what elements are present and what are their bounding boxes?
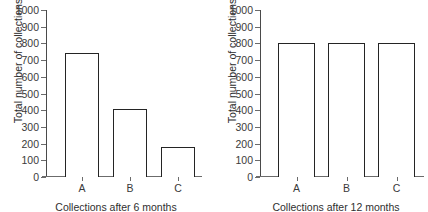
y-tick-left-0 <box>41 177 46 178</box>
bar-left-C <box>161 147 195 177</box>
y-tick-right-600 <box>255 77 260 78</box>
y-tick-label-right-1000: 1000 <box>230 5 253 16</box>
y-tick-label-right-300: 300 <box>235 122 253 133</box>
bar-left-A <box>65 53 99 177</box>
bar-right-C <box>378 43 415 177</box>
y-tick-right-800 <box>255 43 260 44</box>
x-category-label-right-C: C <box>393 183 401 194</box>
y-tick-label-left-100: 100 <box>21 155 39 166</box>
x-category-label-right-B: B <box>343 183 350 194</box>
y-tick-label-left-400: 400 <box>21 105 39 116</box>
y-tick-left-300 <box>41 127 46 128</box>
y-tick-label-right-0: 0 <box>247 172 253 183</box>
y-tick-left-400 <box>41 110 46 111</box>
y-tick-left-500 <box>41 94 46 95</box>
y-tick-left-100 <box>41 160 46 161</box>
y-tick-right-0 <box>255 177 260 178</box>
y-tick-label-left-300: 300 <box>21 122 39 133</box>
chart-panel-6-months: Total number of collections 010020030040… <box>0 0 212 212</box>
y-tick-label-left-200: 200 <box>21 138 39 149</box>
y-tick-label-left-500: 500 <box>21 88 39 99</box>
plot-area-right: 01002003004005006007008009001000 ABC Col… <box>260 10 420 177</box>
x-tick-right-A <box>297 177 298 181</box>
plot-area-left: 01002003004005006007008009001000 ABC Col… <box>46 10 198 177</box>
y-tick-label-right-800: 800 <box>235 38 253 49</box>
y-tick-right-300 <box>255 127 260 128</box>
x-tick-right-B <box>347 177 348 181</box>
y-tick-label-left-600: 600 <box>21 72 39 83</box>
y-tick-label-left-800: 800 <box>21 38 39 49</box>
x-category-label-left-A: A <box>78 183 85 194</box>
y-tick-label-right-900: 900 <box>235 21 253 32</box>
y-tick-right-700 <box>255 60 260 61</box>
y-tick-left-1000 <box>41 10 46 11</box>
chart-panel-12-months: Total number of collections 010020030040… <box>212 0 428 212</box>
y-tick-left-200 <box>41 144 46 145</box>
bar-right-B <box>328 43 365 177</box>
x-tick-left-B <box>130 177 131 181</box>
y-tick-label-left-0: 0 <box>33 172 39 183</box>
y-tick-left-800 <box>41 43 46 44</box>
y-tick-left-600 <box>41 77 46 78</box>
y-tick-label-right-600: 600 <box>235 72 253 83</box>
y-tick-label-left-700: 700 <box>21 55 39 66</box>
y-tick-left-900 <box>41 27 46 28</box>
y-tick-label-right-500: 500 <box>235 88 253 99</box>
y-tick-label-right-700: 700 <box>235 55 253 66</box>
y-tick-label-left-1000: 1000 <box>16 5 39 16</box>
x-category-label-right-A: A <box>293 183 300 194</box>
x-category-label-left-B: B <box>126 183 133 194</box>
y-tick-label-right-200: 200 <box>235 138 253 149</box>
bar-right-A <box>278 43 315 177</box>
y-tick-right-500 <box>255 94 260 95</box>
y-tick-label-left-900: 900 <box>21 21 39 32</box>
x-tick-right-C <box>397 177 398 181</box>
y-tick-right-400 <box>255 110 260 111</box>
x-tick-left-C <box>178 177 179 181</box>
bar-left-B <box>113 109 147 177</box>
y-tick-right-1000 <box>255 10 260 11</box>
y-axis-line-right <box>260 10 261 177</box>
y-axis-line-left <box>46 10 47 177</box>
y-tick-right-100 <box>255 160 260 161</box>
x-axis-title-right: Collections after 12 months <box>256 201 416 212</box>
figure-two-bar-charts: Total number of collections 010020030040… <box>0 0 428 212</box>
x-category-label-left-C: C <box>174 183 182 194</box>
y-tick-label-right-400: 400 <box>235 105 253 116</box>
y-tick-right-200 <box>255 144 260 145</box>
y-tick-left-700 <box>41 60 46 61</box>
y-tick-label-right-100: 100 <box>235 155 253 166</box>
x-axis-title-left: Collections after 6 months <box>40 201 192 212</box>
y-tick-right-900 <box>255 27 260 28</box>
x-tick-left-A <box>82 177 83 181</box>
